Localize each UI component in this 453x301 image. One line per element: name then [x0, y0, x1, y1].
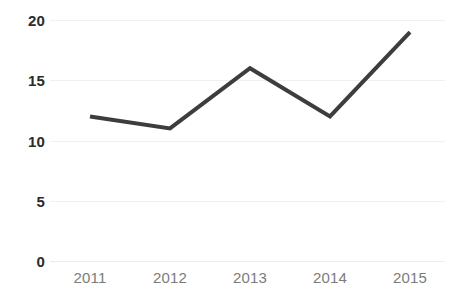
- series-layer: [0, 0, 453, 301]
- line-chart: 20 15 10 5 0 2011 2012 2013 2014 2015: [0, 0, 453, 301]
- data-series-line: [90, 32, 410, 128]
